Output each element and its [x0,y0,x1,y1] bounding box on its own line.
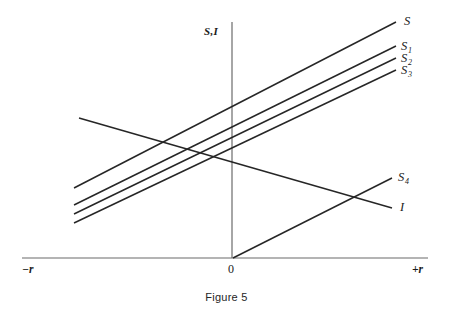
plot-canvas [0,0,453,316]
origin-label: 0 [228,263,234,275]
curve-line-S4 [233,178,392,258]
curve-label-I: I [400,201,404,214]
curve-line-S1 [74,46,396,205]
curve-label-S4-subscript: 4 [405,177,409,186]
curve-label-I-text: I [400,200,404,214]
curve-line-S2 [74,58,396,214]
figure-caption: Figure 5 [0,292,453,303]
figure-5-container: S,I −r 0 +r S S1 S2 S3 S4 I Figure 5 [0,0,453,316]
curve-label-S3: S3 [401,64,412,77]
curve-label-S3-subscript: 3 [408,70,412,79]
x-axis-label-positive: +r [412,264,423,276]
curve-label-S4: S4 [398,171,409,184]
curve-label-S-text: S [404,14,410,28]
y-axis-label: S,I [204,26,218,37]
curve-label-S3-text: S [401,63,407,77]
curve-line-I [79,118,392,208]
curve-label-S4-text: S [398,170,404,184]
x-axis-label-negative: −r [22,264,33,276]
curve-label-S: S [404,15,410,28]
